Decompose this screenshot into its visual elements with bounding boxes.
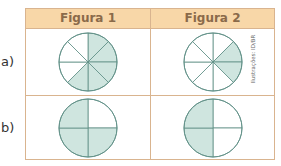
illustration-credit: Ilustrações: ID/BR [249, 36, 257, 82]
pie-figure-b1 [57, 97, 119, 159]
cell-a-figura-1 [26, 29, 150, 95]
row-label-b: b) [1, 120, 14, 135]
fractions-table: Figura 1 Figura 2 [25, 8, 275, 160]
header-figura-2: Figura 2 [151, 9, 274, 28]
table-header: Figura 1 Figura 2 [26, 9, 274, 29]
pie-figure-a2 [182, 31, 244, 93]
header-figura-1: Figura 1 [26, 9, 151, 28]
pie-figure-a1 [57, 31, 119, 93]
cell-b-figura-2 [151, 96, 274, 160]
cell-b-figura-1 [26, 96, 150, 160]
row-label-a: a) [1, 54, 14, 69]
pie-figure-b2 [182, 97, 244, 159]
